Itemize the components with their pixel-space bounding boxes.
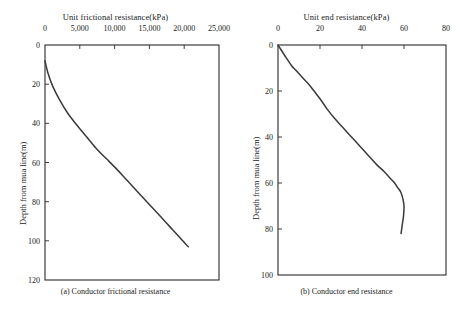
panel-a-plot — [0, 0, 231, 309]
panel-b-axes-frame — [278, 45, 446, 275]
panel-b-x-tickmarks — [320, 45, 404, 49]
panel-a: Unit frictional resistance(kPa) 0 5,000 … — [0, 0, 231, 309]
panel-a-y-tickmarks — [45, 84, 49, 241]
panel-a-caption: (a) Conductor frictional resistance — [0, 287, 231, 296]
panel-a-x-tickmarks — [80, 45, 184, 49]
panel-b: Unit end resistance(kPa) 0 20 40 60 80 0… — [231, 0, 462, 309]
panel-b-plot — [231, 0, 462, 309]
panel-a-data-curve — [45, 61, 188, 247]
figure-container: Unit frictional resistance(kPa) 0 5,000 … — [0, 0, 462, 309]
panel-b-caption: (b) Conductor end resistance — [231, 287, 462, 296]
panel-b-data-curve — [278, 45, 404, 234]
panel-b-y-tickmarks — [278, 91, 282, 229]
panel-a-axes-frame — [45, 45, 219, 280]
